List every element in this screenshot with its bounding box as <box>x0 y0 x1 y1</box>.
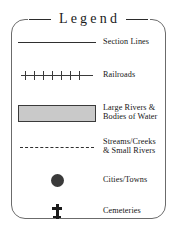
solid-line-icon <box>18 42 96 43</box>
legend-entry-label: Cemeteries <box>103 207 166 216</box>
railroad-line-icon <box>21 70 93 81</box>
legend-entry-railroads: Railroads <box>11 65 166 85</box>
filled-rectangle-icon <box>18 105 96 122</box>
filled-circle-icon <box>51 174 64 187</box>
railroad-tie <box>43 71 44 80</box>
legend-entry-large-rivers: Large Rivers & Bodies of Water <box>11 100 166 126</box>
railroad-tie <box>52 71 53 80</box>
streams-symbol <box>11 137 103 157</box>
railroad-tie <box>34 71 35 80</box>
dashed-line-icon <box>20 147 94 148</box>
map-legend: Legend Section Lines <box>0 0 177 230</box>
cities-symbol <box>11 170 103 190</box>
legend-entries: Section Lines Railroads <box>11 19 166 219</box>
railroads-symbol <box>11 65 103 85</box>
railroad-tie <box>25 71 26 80</box>
legend-entry-label: Railroads <box>103 71 166 80</box>
legend-entry-cities: Cities/Towns <box>11 169 166 191</box>
cross-base <box>53 216 61 219</box>
cross-icon <box>52 204 63 219</box>
legend-entry-section-lines: Section Lines <box>11 32 166 52</box>
legend-entry-streams: Streams/Creeks & Small Rivers <box>11 135 166 159</box>
cross-arm <box>52 207 62 210</box>
railroad-tie <box>79 71 80 80</box>
railroad-rail <box>21 75 93 76</box>
legend-entry-label: Streams/Creeks & Small Rivers <box>103 138 166 156</box>
legend-entry-label: Section Lines <box>103 38 166 47</box>
legend-entry-cemeteries: Cemeteries <box>11 200 166 222</box>
section-lines-symbol <box>11 32 103 52</box>
railroad-tie <box>70 71 71 80</box>
large-rivers-symbol <box>11 103 103 123</box>
legend-entry-label: Large Rivers & Bodies of Water <box>103 104 166 122</box>
railroad-tie <box>61 71 62 80</box>
legend-entry-label: Cities/Towns <box>103 176 166 185</box>
cemeteries-symbol <box>11 201 103 221</box>
